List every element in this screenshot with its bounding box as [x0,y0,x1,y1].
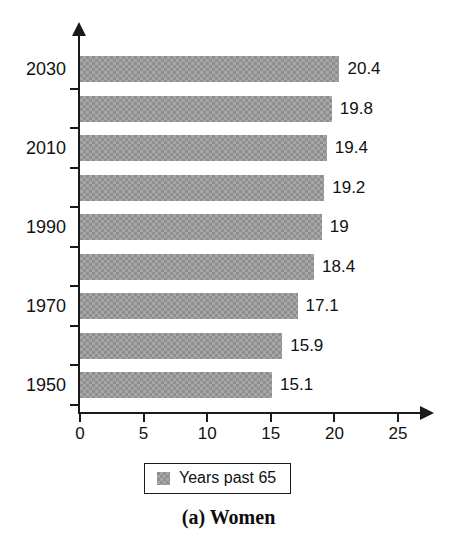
bar-value-label: 19.8 [340,96,373,122]
y-axis-tick [70,206,79,208]
y-axis-tick [70,127,79,129]
category-label: 1970 [4,293,66,319]
figure-women-years-past-65: 20.4203019.819.4201019.219199018.417.119… [0,0,457,543]
bar-chart-plot-area: 20.4203019.819.4201019.219199018.417.119… [0,0,457,445]
x-axis-tick [397,413,399,422]
bar-value-label: 19 [330,214,349,240]
bar-value-label: 19.2 [332,175,365,201]
x-axis-tick [79,413,81,422]
legend-swatch-icon [157,472,170,485]
figure-caption: (a) Women [0,506,457,529]
x-axis-tick-label: 20 [314,424,354,444]
category-label: 1950 [4,372,66,398]
chart-legend: Years past 65 [144,463,291,494]
y-axis-arrow-icon [72,22,86,36]
y-axis-tick [70,285,79,287]
x-axis-tick-label: 15 [251,424,291,444]
y-axis-tick [70,364,79,366]
bar [80,293,298,319]
bar [80,175,324,201]
x-axis-tick-label: 10 [187,424,227,444]
x-axis-arrow-icon [420,406,434,420]
y-axis-tick [70,325,79,327]
legend-label: Years past 65 [179,469,276,487]
bar-value-label: 15.9 [290,333,323,359]
bar [80,56,339,82]
x-axis-tick [333,413,335,422]
x-axis-line [78,412,422,414]
y-axis-tick [70,167,79,169]
bar-value-label: 17.1 [306,293,339,319]
x-axis-tick [270,413,272,422]
bar-value-label: 20.4 [347,56,380,82]
bar [80,96,332,122]
y-axis-tick [70,246,79,248]
y-axis-tick [70,404,79,406]
x-axis-tick-label: 5 [124,424,164,444]
x-axis-tick-label: 25 [378,424,418,444]
x-axis-tick [206,413,208,422]
x-axis-tick [143,413,145,422]
bar [80,214,322,240]
category-label: 2030 [4,56,66,82]
bar [80,254,314,280]
y-axis-tick [70,88,79,90]
category-label: 1990 [4,214,66,240]
bar-value-label: 19.4 [335,135,368,161]
bar-value-label: 18.4 [322,254,355,280]
x-axis-tick-label: 0 [60,424,100,444]
bar [80,135,327,161]
bar-value-label: 15.1 [280,372,313,398]
bar [80,372,272,398]
bar [80,333,282,359]
category-label: 2010 [4,135,66,161]
